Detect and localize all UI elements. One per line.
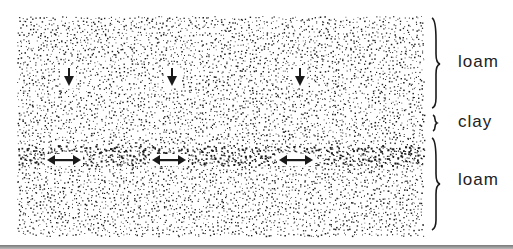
stipple-pattern xyxy=(17,16,425,237)
bracket-clay xyxy=(433,115,437,131)
bottom-rule xyxy=(0,245,513,249)
label-clay: clay xyxy=(458,112,492,132)
brackets xyxy=(432,18,440,230)
soil-profile-figure xyxy=(0,0,513,249)
label-upper-loam: loam xyxy=(458,52,499,72)
label-lower-loam: loam xyxy=(458,170,499,190)
bracket-upper-loam xyxy=(432,18,440,108)
bracket-lower-loam xyxy=(432,138,440,230)
